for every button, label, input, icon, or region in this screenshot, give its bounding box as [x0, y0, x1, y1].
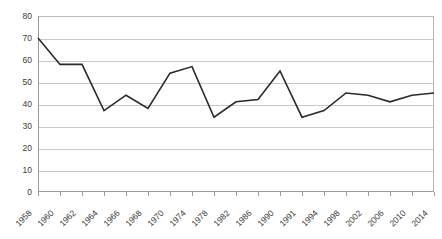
line-chart: 01020304050607080 1958196019621964196619… [0, 0, 442, 239]
x-axis-tick-label: 1990 [256, 209, 275, 228]
x-axis-tick-label: 1974 [168, 209, 187, 228]
y-axis-tick-label: 40 [0, 100, 32, 109]
x-axis-tick [346, 192, 347, 196]
x-axis-tick-label: 2014 [410, 209, 429, 228]
series-polyline [38, 38, 434, 117]
x-axis-tick-label: 1960 [36, 209, 55, 228]
x-axis-tick-label: 1970 [146, 209, 165, 228]
x-axis-tick [368, 192, 369, 196]
x-axis-tick-label: 1958 [14, 209, 33, 228]
x-axis-tick [170, 192, 171, 196]
y-axis-tick-labels: 01020304050607080 [0, 16, 34, 192]
x-axis-tick [236, 192, 237, 196]
x-axis-tick [390, 192, 391, 196]
y-axis-tick-label: 0 [0, 188, 32, 197]
x-axis-tick [148, 192, 149, 196]
x-axis-tick-label: 2010 [388, 209, 407, 228]
x-axis-tick-label: 1982 [212, 209, 231, 228]
x-axis-tick [258, 192, 259, 196]
x-axis-tick-label: 1998 [322, 209, 341, 228]
x-axis-tick-label: 1966 [102, 209, 121, 228]
x-axis-tick-label: 2006 [366, 209, 385, 228]
x-axis-tick [104, 192, 105, 196]
x-axis-tick-label: 1991 [278, 209, 297, 228]
x-axis-tick [280, 192, 281, 196]
y-axis-tick-label: 50 [0, 78, 32, 87]
x-axis-tick [126, 192, 127, 196]
y-axis-tick-label: 20 [0, 144, 32, 153]
x-axis-tick [192, 192, 193, 196]
x-axis-tick-label: 1964 [80, 209, 99, 228]
x-axis-tick [412, 192, 413, 196]
y-axis-tick-label: 80 [0, 12, 32, 21]
x-axis-tick-label: 1962 [58, 209, 77, 228]
x-axis-tick-label: 2002 [344, 209, 363, 228]
x-axis-tick [60, 192, 61, 196]
x-axis-tick-label: 1994 [300, 209, 319, 228]
y-axis-tick-label: 30 [0, 122, 32, 131]
x-axis-tick [82, 192, 83, 196]
y-axis-tick-label: 10 [0, 166, 32, 175]
x-axis-tick [214, 192, 215, 196]
y-axis-tick-label: 60 [0, 56, 32, 65]
x-axis-tick [434, 192, 435, 196]
series-line-1 [38, 16, 434, 192]
x-axis-tick-label: 1978 [190, 209, 209, 228]
x-axis-tick [38, 192, 39, 196]
x-axis-tick [324, 192, 325, 196]
x-axis-tick-label: 1986 [234, 209, 253, 228]
y-axis-tick-label: 70 [0, 34, 32, 43]
x-axis-tick [302, 192, 303, 196]
x-axis-tick-label: 1968 [124, 209, 143, 228]
